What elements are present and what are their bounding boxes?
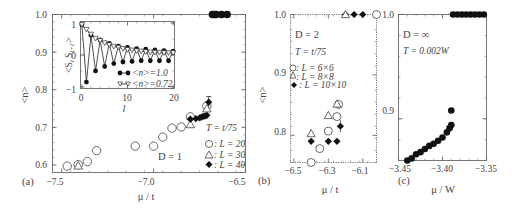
marker-circle-filled <box>439 134 446 141</box>
inset-xlabel: l <box>123 103 126 114</box>
marker-circle-filled <box>448 107 455 114</box>
marker-circle-filled <box>102 64 107 69</box>
marker-circle-filled <box>166 58 171 63</box>
b-ytick-0.8: 0.8 <box>274 127 286 137</box>
panel-c-label: (c) <box>398 175 410 187</box>
marker-circle-filled <box>157 58 162 63</box>
b-xtick--6.5: −6.5 <box>284 166 301 176</box>
inset-legend-circle-filled-icon <box>118 71 123 76</box>
marker-circle-filled <box>448 122 455 129</box>
c-temperature-label: T = 0.002W <box>403 46 450 56</box>
marker-circle-filled <box>139 58 144 63</box>
marker-circle-open <box>159 133 167 141</box>
marker-diamond-filled <box>359 11 366 18</box>
a-temperature-label: T = t/75 <box>206 123 237 133</box>
marker-circle-open <box>333 113 341 121</box>
a-xtick--7.0: −7.0 <box>137 177 154 187</box>
a-legend-l30: : L = 30 <box>214 150 246 160</box>
marker-circle-filled <box>111 61 116 66</box>
marker-diamond-filled <box>333 138 340 145</box>
a-legend: : L = 20 : L = 30 : L = 40 <box>205 139 246 170</box>
marker-diamond-filled <box>337 123 344 130</box>
legend-diamond-filled-icon <box>206 161 213 168</box>
inset-legend-n1: <n>=1.0 <box>132 68 168 78</box>
marker-circle-open <box>149 142 157 150</box>
inset-xtick-10: 10 <box>122 93 132 103</box>
marker-triangle-open <box>307 130 315 137</box>
marker-circle-open <box>307 159 315 167</box>
b-temperature-label: T = t/75 <box>295 47 326 57</box>
c-ytick-1.0: 1.0 <box>382 10 394 20</box>
a-xlabel: μ / t <box>138 191 155 202</box>
inset-ytick--1: −1 <box>66 85 76 95</box>
marker-circle-filled <box>84 80 89 85</box>
inset-ytick-1: 1 <box>71 20 76 30</box>
marker-circle-open <box>168 124 176 132</box>
a-ytick-0.6: 0.6 <box>35 160 47 170</box>
marker-circle-open <box>83 157 91 165</box>
b-xtick--6.1: −6.1 <box>351 166 368 176</box>
b-legend: : L = 6×6 : L = 8×8 : L = 10×10 <box>290 63 346 90</box>
legend-diamond-filled-icon <box>291 82 297 88</box>
marker-circle-open <box>63 162 71 170</box>
marker-circle-filled <box>93 69 98 74</box>
c-xtick--3.35: −3.35 <box>475 164 497 174</box>
marker-circle-filled <box>121 60 126 65</box>
marker-circle-filled <box>148 58 153 63</box>
a-xtick--6.5: −6.5 <box>228 177 245 187</box>
c-ytick-0.9: 0.9 <box>382 106 394 116</box>
marker-circle-open <box>131 142 139 150</box>
a-inset: 1 0 −1 0 10 20 l <Sl Sl+l'> <n>=1.0 <n>=… <box>64 20 179 114</box>
b-dimension-label: D = 2 <box>295 29 319 40</box>
marker-circle-filled <box>481 11 488 18</box>
marker-circle-filled <box>223 11 231 19</box>
c-xlabel: μ / W <box>431 184 455 195</box>
a-ytick-1.0: 1.0 <box>35 10 47 20</box>
a-legend-l40: : L = 40 <box>214 160 246 170</box>
panel-c: 0.9 1.0 −3.45 −3.40 −3.35 (c) μ / W D = … <box>382 10 497 195</box>
a-xtick--7.5: −7.5 <box>46 177 63 187</box>
b-ytick-0.9: 0.9 <box>274 68 286 78</box>
panel-a: 0.6 0.7 0.8 0.9 1.0 −7.5 −7.0 −6.5 (a) μ… <box>19 10 246 202</box>
legend-circle-open-icon <box>205 140 212 147</box>
figure: 0.6 0.7 0.8 0.9 1.0 −7.5 −7.0 −6.5 (a) μ… <box>0 0 512 211</box>
marker-diamond-filled <box>308 138 315 145</box>
a-ytick-0.7: 0.7 <box>35 123 47 133</box>
marker-circle-open <box>373 11 381 19</box>
b-ylabel: <n> <box>257 86 268 103</box>
panel-a-label: (a) <box>22 176 34 188</box>
inset-legend-circle-filled-icon <box>126 71 131 76</box>
inset-legend-n072: <n>=0.72 <box>132 79 173 89</box>
a-legend-l20: : L = 20 <box>214 139 246 149</box>
marker-diamond-filled <box>351 11 358 18</box>
a-dimension-label: D = 1 <box>158 151 182 162</box>
legend-triangle-open-icon <box>205 151 213 158</box>
inset-xtick-0: 0 <box>79 93 84 103</box>
a-ylabel: <n> <box>19 86 30 103</box>
a-ytick-0.8: 0.8 <box>35 85 47 95</box>
b-xtick--6.3: −6.3 <box>318 166 335 176</box>
marker-circle-open <box>324 127 332 135</box>
marker-circle-open <box>92 146 100 154</box>
marker-circle-open <box>177 123 185 131</box>
marker-diamond-filled <box>325 138 332 145</box>
b-legend-l10: : L = 10×10 <box>299 80 346 90</box>
b-xlabel: μ / t <box>322 184 339 195</box>
marker-circle-filled <box>130 59 135 64</box>
c-xtick--3.40: −3.40 <box>431 164 453 174</box>
marker-triangle-open <box>324 111 332 118</box>
c-xtick--3.45: −3.45 <box>389 164 411 174</box>
panel-b-label: (b) <box>258 175 271 187</box>
b-ytick-1.0: 1.0 <box>274 10 286 20</box>
a-ytick-0.9: 0.9 <box>35 48 47 58</box>
panel-b: 0.8 0.9 1.0 −6.5 −6.3 −6.1 (b) μ / t <n>… <box>257 10 381 195</box>
marker-circle-open <box>316 145 324 153</box>
c-dimension-label: D = ∞ <box>403 29 429 40</box>
inset-xtick-20: 20 <box>169 93 179 103</box>
